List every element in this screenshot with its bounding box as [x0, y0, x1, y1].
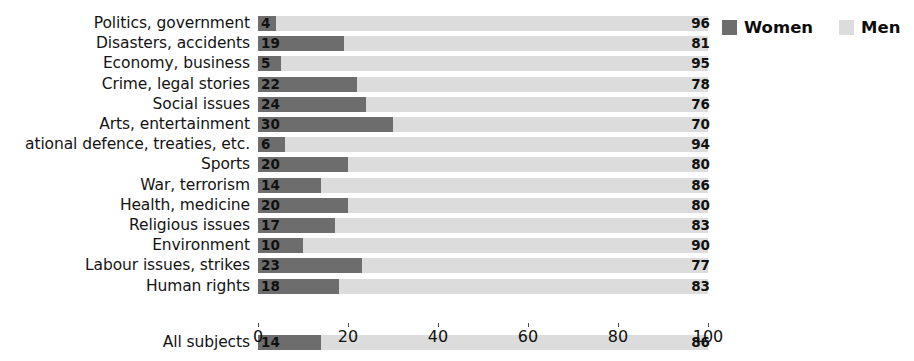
men-value-label: 95 — [600, 56, 710, 71]
bar-row: Disasters, accidents1981 — [0, 36, 914, 52]
men-value-label: 86 — [600, 178, 710, 193]
category-label: Health, medicine — [0, 197, 250, 213]
legend-item-women[interactable]: Women — [722, 18, 813, 37]
category-label: Disasters, accidents — [0, 35, 250, 51]
women-value-label: 17 — [261, 218, 280, 233]
bar-row: Human rights1883 — [0, 279, 914, 295]
chart-legend: WomenMen — [722, 17, 914, 37]
bar-row: War, terrorism1486 — [0, 178, 914, 194]
women-value-label: 14 — [261, 178, 280, 193]
category-label: ational defence, treaties, etc. — [0, 136, 250, 152]
bar-row: Arts, entertainment3070 — [0, 117, 914, 133]
women-value-label: 6 — [261, 137, 270, 152]
women-value-label: 4 — [261, 16, 270, 31]
women-value-label: 20 — [261, 157, 280, 172]
category-label: Politics, government — [0, 15, 250, 31]
men-value-label: 81 — [600, 36, 710, 51]
men-value-label: 77 — [600, 258, 710, 273]
category-label: Arts, entertainment — [0, 116, 250, 132]
bar-row: ational defence, treaties, etc.694 — [0, 137, 914, 153]
men-value-label: 96 — [600, 16, 710, 31]
bar-row: Environment1090 — [0, 238, 914, 254]
men-value-label: 70 — [600, 117, 710, 132]
women-value-label: 19 — [261, 36, 280, 51]
men-value-label: 76 — [600, 97, 710, 112]
women-value-label: 18 — [261, 279, 280, 294]
bar-row: Economy, business595 — [0, 56, 914, 72]
x-axis: 020406080100 — [0, 323, 914, 361]
men-value-label: 80 — [600, 157, 710, 172]
bar-row: Sports2080 — [0, 157, 914, 173]
category-label: Environment — [0, 237, 250, 253]
women-value-label: 23 — [261, 258, 280, 273]
legend-item-men[interactable]: Men — [839, 18, 900, 37]
x-axis-tick-label: 40 — [408, 327, 468, 347]
bar-row: Social issues2476 — [0, 97, 914, 113]
men-value-label: 83 — [600, 279, 710, 294]
women-value-label: 30 — [261, 117, 280, 132]
bar-row: Crime, legal stories2278 — [0, 77, 914, 93]
women-value-label: 22 — [261, 77, 280, 92]
category-label: War, terrorism — [0, 177, 250, 193]
men-value-label: 90 — [600, 238, 710, 253]
men-value-label: 80 — [600, 198, 710, 213]
x-axis-tick-label: 20 — [318, 327, 378, 347]
category-label: Sports — [0, 156, 250, 172]
x-axis-tick-label: 60 — [498, 327, 558, 347]
bar-row: Labour issues, strikes2377 — [0, 258, 914, 274]
x-axis-tick-label: 100 — [678, 327, 738, 347]
category-label: Labour issues, strikes — [0, 257, 250, 273]
women-swatch-icon — [722, 20, 737, 35]
stacked-bar-chart: Politics, government496Disasters, accide… — [0, 0, 914, 361]
legend-label: Men — [861, 18, 900, 37]
women-value-label: 5 — [261, 56, 270, 71]
bar-row: Health, medicine2080 — [0, 198, 914, 214]
category-label: Religious issues — [0, 217, 250, 233]
men-value-label: 94 — [600, 137, 710, 152]
men-swatch-icon — [839, 20, 854, 35]
category-label: Economy, business — [0, 55, 250, 71]
x-axis-tick-label: 0 — [228, 327, 288, 347]
bar-row: Religious issues1783 — [0, 218, 914, 234]
category-label: Crime, legal stories — [0, 76, 250, 92]
category-label: Human rights — [0, 278, 250, 294]
x-axis-tick-label: 80 — [588, 327, 648, 347]
men-value-label: 78 — [600, 77, 710, 92]
women-value-label: 24 — [261, 97, 280, 112]
women-value-label: 20 — [261, 198, 280, 213]
category-label: Social issues — [0, 96, 250, 112]
legend-label: Women — [744, 18, 813, 37]
men-value-label: 83 — [600, 218, 710, 233]
women-value-label: 10 — [261, 238, 280, 253]
